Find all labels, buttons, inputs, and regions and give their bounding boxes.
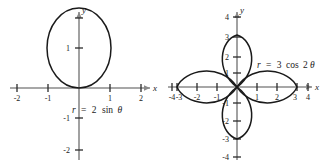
equation-r: r xyxy=(72,105,76,115)
rose-plot-panel: -4 -3 -2 -1 1 2 3 4 4 3 2 1 -1 -2 -3 -4 … xyxy=(162,0,324,163)
circle-plot-svg: -2 -1 1 2 1 -1 -2 x y r = 2 sin θ xyxy=(0,0,162,163)
y-ticklabel-2: 2 xyxy=(225,53,229,62)
equation-coefficient: 3 xyxy=(277,60,282,70)
x-axis-label: x xyxy=(314,82,319,92)
y-ticklabel--2: -2 xyxy=(63,146,70,155)
x-ticklabel--1: -1 xyxy=(45,94,52,103)
x-axis-arrow-icon xyxy=(306,84,312,90)
equation-theta: θ xyxy=(117,105,122,115)
y-ticklabel--1: -1 xyxy=(63,114,70,123)
x-ticklabel-1: 1 xyxy=(255,93,259,102)
y-ticklabel--3: -3 xyxy=(222,135,229,144)
x-ticklabel--2: -2 xyxy=(194,93,201,102)
x-ticklabel-4: 4 xyxy=(306,93,310,102)
x-ticklabel-1: 1 xyxy=(108,94,112,103)
x-ticklabel-3: 3 xyxy=(293,93,297,102)
x-ticklabel--4: -4 xyxy=(169,93,176,102)
x-ticklabel--3: -3 xyxy=(176,93,183,102)
y-axis-label: y xyxy=(239,5,244,15)
y-axis-label: y xyxy=(81,5,86,15)
axes-group xyxy=(10,12,150,160)
y-ticklabel-1: 1 xyxy=(66,44,70,53)
y-axis-arrow-icon xyxy=(76,12,82,18)
equation-coefficient: 2 xyxy=(92,105,97,115)
y-ticklabel--4: -4 xyxy=(222,153,229,162)
equation-function: sin xyxy=(102,105,113,115)
rose-plot-svg: -4 -3 -2 -1 1 2 3 4 4 3 2 1 -1 -2 -3 -4 … xyxy=(162,0,324,163)
x-ticklabel--1: -1 xyxy=(214,93,221,102)
x-ticklabel--2: -2 xyxy=(14,94,21,103)
equation-argument: 2 xyxy=(303,60,308,70)
circle-plot-panel: -2 -1 1 2 1 -1 -2 x y r = 2 sin θ xyxy=(0,0,162,163)
equation-label: r = 3 cos 2 θ xyxy=(257,60,315,70)
x-axis-label: x xyxy=(152,83,157,93)
x-ticklabel-2: 2 xyxy=(139,94,143,103)
polar-graphs-figure: -2 -1 1 2 1 -1 -2 x y r = 2 sin θ xyxy=(0,0,324,163)
x-axis-arrow-icon xyxy=(144,85,150,91)
y-ticklabel--2: -2 xyxy=(222,117,229,126)
equation-function: cos xyxy=(286,60,299,70)
x-ticklabel-2: 2 xyxy=(275,93,279,102)
equation-equals: = xyxy=(81,105,86,115)
equation-equals: = xyxy=(266,60,271,70)
y-ticklabel-1: 1 xyxy=(225,69,229,78)
equation-theta: θ xyxy=(310,60,315,70)
equation-r: r xyxy=(257,60,261,70)
y-ticklabel--1: -1 xyxy=(222,99,229,108)
y-ticklabel-4: 4 xyxy=(225,13,229,22)
y-ticklabel-3: 3 xyxy=(225,33,229,42)
